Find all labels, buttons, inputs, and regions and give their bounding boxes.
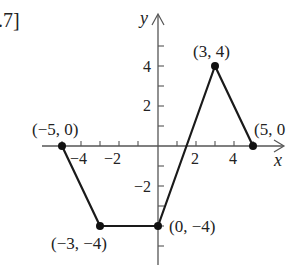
x-tick-label-neg4: −4	[70, 150, 87, 167]
point-label-5-0: (5, 0	[254, 120, 285, 139]
x-axis-label: x	[273, 150, 282, 170]
x-tick-label-2: 2	[191, 150, 199, 167]
y-tick-label-2: 2	[143, 97, 151, 114]
fragment-label: .7]	[0, 9, 20, 31]
y-axis-label: y	[138, 8, 148, 28]
point-neg5-0	[58, 142, 66, 150]
point-label-neg5-0: (−5, 0)	[32, 120, 78, 139]
point-label-0-neg4: (0, −4)	[169, 217, 215, 236]
point-5-0	[249, 142, 257, 150]
point-label-3-4: (3, 4)	[193, 42, 230, 61]
x-tick-label-4: 4	[229, 150, 237, 167]
y-tick-label-neg2: −2	[134, 178, 151, 195]
y-tick-label-4: 4	[143, 58, 151, 75]
point-label-neg3-neg4: (−3, −4)	[51, 234, 107, 253]
function-graph: .7] −4 −2 2 4 x	[0, 0, 294, 273]
x-tick-label-neg2: −2	[104, 150, 121, 167]
point-3-4	[211, 62, 219, 70]
point-neg3-neg4	[96, 222, 104, 230]
point-0-neg4	[154, 222, 162, 230]
